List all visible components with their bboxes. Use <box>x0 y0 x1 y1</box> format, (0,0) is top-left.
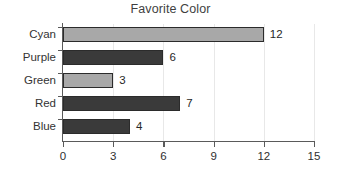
y-axis-spine <box>62 23 63 142</box>
x-tick <box>63 142 64 147</box>
bar-value-label-purple: 6 <box>169 50 175 65</box>
chart-title: Favorite Color <box>0 2 341 16</box>
y-tick-label-blue: Blue <box>33 120 56 133</box>
x-tick-label-3: 3 <box>110 150 116 162</box>
bar-blue <box>63 119 130 134</box>
bar-red <box>63 96 180 111</box>
y-tick <box>58 96 63 97</box>
y-tick <box>58 50 63 51</box>
x-tick <box>214 142 215 147</box>
x-axis-spine <box>62 141 315 142</box>
x-tick <box>314 142 315 147</box>
bar-value-label-green: 3 <box>119 73 125 88</box>
bar-chart-figure: Favorite Color 12Cyan6Purple3Green7Red4B… <box>0 0 341 173</box>
x-tick-label-12: 12 <box>257 150 270 162</box>
bar-value-label-blue: 4 <box>136 119 142 134</box>
y-tick-label-purple: Purple <box>23 51 56 64</box>
bar-value-label-red: 7 <box>186 96 192 111</box>
x-tick <box>113 142 114 147</box>
bar-value-label-cyan: 12 <box>270 27 283 42</box>
bar-green <box>63 73 113 88</box>
y-tick-label-green: Green <box>24 74 56 87</box>
y-tick <box>58 119 63 120</box>
y-tick <box>58 73 63 74</box>
bar-cyan <box>63 27 264 42</box>
x-tick <box>264 142 265 147</box>
x-tick-label-9: 9 <box>210 150 216 162</box>
x-tick <box>163 142 164 147</box>
y-tick <box>58 27 63 28</box>
x-tick-label-6: 6 <box>160 150 166 162</box>
bar-purple <box>63 50 163 65</box>
gridline <box>314 24 315 141</box>
gridline <box>264 24 265 141</box>
x-tick-label-15: 15 <box>308 150 321 162</box>
y-tick-label-cyan: Cyan <box>29 28 56 41</box>
y-tick-label-red: Red <box>35 97 56 110</box>
x-tick-label-0: 0 <box>60 150 66 162</box>
